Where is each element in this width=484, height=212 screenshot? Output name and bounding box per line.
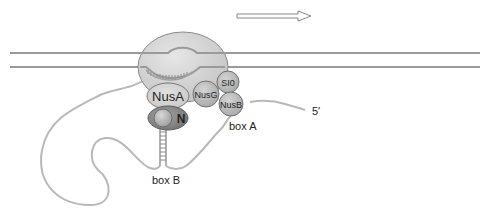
s10-label: SI0: [221, 78, 235, 88]
box-a-label: box A: [229, 120, 257, 132]
s10-protein: SI0: [217, 71, 239, 93]
transcription-direction-arrow-icon: [237, 11, 311, 21]
nusb-label: NusB: [220, 100, 242, 110]
nusa-protein: NusA: [147, 83, 189, 109]
nusg-label: NusG: [194, 90, 217, 100]
dna-duplex: [10, 53, 480, 67]
antitermination-diagram: NusA N NusG SI0 NusB box A box B 5′: [0, 0, 484, 212]
box-b-hairpin: [160, 128, 166, 166]
five-prime-label: 5′: [312, 105, 320, 117]
nusg-protein: NusG: [193, 81, 219, 107]
nusa-label: NusA: [152, 89, 184, 104]
box-b-label: box B: [152, 174, 180, 186]
nusb-protein: NusB: [219, 92, 243, 116]
n-label: N: [177, 112, 186, 126]
n-protein: N: [148, 106, 188, 130]
